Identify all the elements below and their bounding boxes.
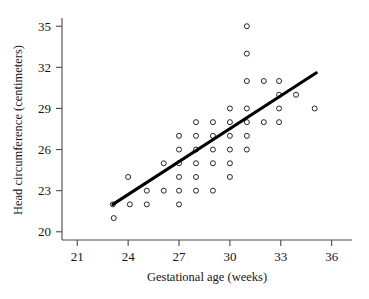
data-point	[193, 133, 198, 138]
data-point	[277, 106, 282, 111]
data-point	[193, 174, 198, 179]
data-point	[210, 120, 215, 125]
data-point	[244, 24, 249, 29]
y-tick-label: 29	[38, 101, 51, 116]
x-tick-label: 33	[274, 249, 287, 264]
data-point	[227, 133, 232, 138]
data-point	[111, 216, 116, 221]
data-point	[193, 120, 198, 125]
data-point	[227, 147, 232, 152]
x-tick-label: 27	[173, 249, 187, 264]
data-point	[126, 174, 131, 179]
x-axis-tick-labels: 212427303336	[71, 249, 339, 264]
data-point	[294, 92, 299, 97]
data-point	[261, 79, 266, 84]
data-point	[127, 202, 132, 207]
data-point	[244, 51, 249, 56]
x-tick-label: 24	[122, 249, 136, 264]
y-axis-title: Head circumference (centimeters)	[11, 45, 25, 215]
data-point	[161, 188, 166, 193]
y-axis-tick-labels: 202326293235	[38, 19, 52, 240]
data-point	[177, 174, 182, 179]
data-point	[227, 106, 232, 111]
data-point	[244, 133, 249, 138]
data-point	[261, 120, 266, 125]
data-point	[177, 188, 182, 193]
x-axis-title: Gestational age (weeks)	[147, 270, 267, 284]
data-point	[227, 174, 232, 179]
data-point	[177, 147, 182, 152]
data-point	[210, 161, 215, 166]
data-point	[177, 133, 182, 138]
x-axis-ticks	[77, 240, 331, 246]
data-point	[144, 188, 149, 193]
data-point	[210, 188, 215, 193]
data-points-layer	[110, 24, 317, 221]
data-point	[193, 161, 198, 166]
scatter-plot-figure: 202326293235 212427303336 Gestational ag…	[0, 0, 369, 299]
data-point	[210, 147, 215, 152]
data-point	[277, 120, 282, 125]
x-tick-label: 36	[325, 249, 339, 264]
data-point	[244, 147, 249, 152]
data-point	[227, 161, 232, 166]
data-point	[177, 202, 182, 207]
x-tick-label: 30	[223, 249, 236, 264]
y-tick-label: 20	[38, 224, 51, 239]
y-axis-ticks	[56, 26, 62, 232]
data-point	[144, 202, 149, 207]
data-point	[277, 79, 282, 84]
y-tick-label: 26	[38, 142, 52, 157]
data-point	[227, 120, 232, 125]
y-tick-label: 32	[38, 60, 51, 75]
x-tick-label: 21	[71, 249, 84, 264]
data-point	[161, 161, 166, 166]
data-point	[193, 188, 198, 193]
data-point	[312, 106, 317, 111]
y-tick-label: 23	[38, 183, 51, 198]
regression-trend-line	[113, 73, 317, 205]
data-point	[244, 106, 249, 111]
y-tick-label: 35	[38, 19, 51, 34]
plot-canvas: 202326293235 212427303336 Gestational ag…	[0, 0, 369, 299]
data-point	[244, 79, 249, 84]
